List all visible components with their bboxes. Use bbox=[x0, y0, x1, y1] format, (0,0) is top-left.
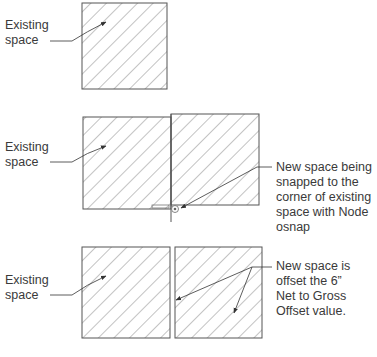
panel-1 bbox=[50, 3, 167, 89]
existing-space-box bbox=[82, 3, 167, 89]
new-space-box bbox=[175, 247, 262, 338]
new-space-snap-callout: New space being snapped to the corner of… bbox=[276, 160, 372, 235]
offset-callout: New space is offset the 6” Net to Gross … bbox=[276, 259, 350, 319]
panel-3 bbox=[50, 247, 272, 338]
node-osnap-icon bbox=[172, 206, 179, 213]
existing-space-box bbox=[83, 117, 171, 209]
new-space-box bbox=[171, 114, 259, 205]
existing-space-label: Existing space bbox=[5, 273, 49, 303]
existing-space-label: Existing space bbox=[5, 140, 49, 170]
existing-space-label: Existing space bbox=[5, 18, 49, 48]
existing-space-box bbox=[82, 247, 170, 338]
panel-2 bbox=[50, 114, 272, 222]
